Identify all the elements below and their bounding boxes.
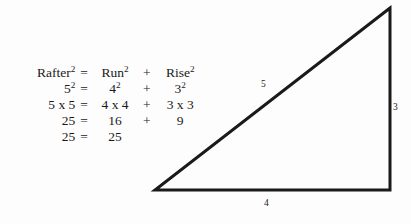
- triangle-label-rise: 3: [393, 102, 398, 112]
- triangle-label-hypotenuse: 5: [261, 79, 266, 89]
- right-triangle-drawing: [0, 0, 411, 224]
- triangle-outline: [155, 8, 390, 190]
- pythagorean-rafter-figure: Rafter2 = Run2 + Rise2 52 = 42 + 32 5 x …: [0, 0, 411, 224]
- triangle-label-run: 4: [264, 198, 269, 208]
